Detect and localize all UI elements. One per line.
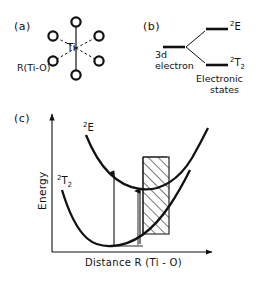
curve-2E-label: 2E (83, 122, 94, 133)
curve-2T2-label: 2T2 (57, 175, 72, 186)
oxygen-atom-upper-right (94, 31, 103, 40)
origin-level-line1: 3d (155, 49, 167, 60)
x-axis-title: Distance R (Ti - O) (85, 257, 182, 268)
curve-2E-term: E (87, 122, 93, 133)
electronic-states-caption: Electronic states (196, 74, 243, 95)
figure-root: (a) (b) (c) (0, 0, 263, 283)
y-axis-title: Energy (36, 171, 48, 210)
origin-level-line2: electron (155, 60, 194, 71)
bond-distance-label: R(Ti-O) (17, 63, 50, 74)
center-atom-label: Ti (67, 42, 76, 53)
oxygen-atom-bottom (71, 70, 80, 79)
level-2T2-label: 2T2 (230, 57, 245, 68)
oxygen-atom-upper-left (48, 31, 57, 40)
electronic-states-line1: Electronic (196, 73, 243, 84)
oxygen-atom-lower-right (94, 56, 103, 65)
level-2T2-subscript: 2 (241, 63, 245, 71)
level-2E-term: E (234, 21, 240, 32)
level-2E-label: 2E (230, 21, 241, 32)
origin-level-label: 3d electron (155, 50, 194, 71)
panel-a-drawing (0, 0, 263, 283)
electronic-states-line2: states (210, 85, 239, 96)
oxygen-atom-top (71, 17, 80, 26)
curve-2T2-subscript: 2 (68, 181, 72, 189)
